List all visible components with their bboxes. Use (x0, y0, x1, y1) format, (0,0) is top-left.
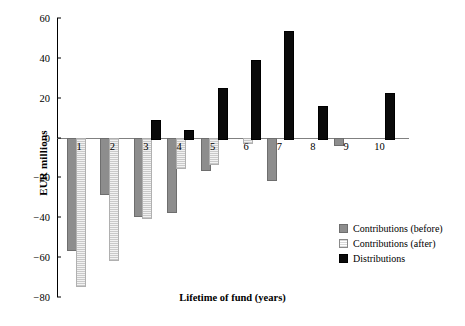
legend-item[interactable]: Distributions (339, 251, 443, 266)
y-tick-mark (57, 257, 61, 258)
y-tick-mark (57, 177, 61, 178)
x-tick-label: 7 (277, 141, 282, 152)
y-tick-mark (57, 57, 61, 58)
legend-swatch-icon (339, 224, 348, 233)
x-tick-label: 8 (310, 141, 315, 152)
x-axis-title: Lifetime of fund (years) (0, 292, 465, 303)
y-tick-label: 20 (40, 92, 58, 103)
bar-after-1 (76, 138, 86, 287)
legend-swatch-icon (339, 239, 348, 248)
x-tick-label: 10 (374, 141, 385, 152)
bar-dist-6 (251, 60, 261, 140)
legend-label: Contributions (after) (353, 236, 435, 251)
y-tick-mark (57, 217, 61, 218)
y-tick-label: 60 (40, 13, 58, 24)
x-tick-label: 4 (177, 141, 182, 152)
x-tick-label: 5 (210, 141, 215, 152)
bar-dist-10 (385, 93, 395, 140)
y-tick-label: 40 (40, 52, 58, 63)
x-tick-label: 2 (110, 141, 115, 152)
y-tick-label: −20 (34, 172, 57, 183)
y-tick-mark (57, 18, 61, 19)
chart-container: EUR millions 6040200−20−40−60−80 1234567… (0, 0, 465, 326)
bar-dist-8 (318, 106, 328, 140)
bar-dist-5 (218, 88, 228, 140)
x-tick-label: 6 (243, 141, 248, 152)
y-tick-mark (57, 97, 61, 98)
y-tick-mark (57, 137, 61, 138)
chart-legend: Contributions (before)Contributions (aft… (339, 221, 443, 266)
legend-label: Contributions (before) (353, 221, 443, 236)
y-tick-label: −60 (34, 252, 57, 263)
legend-swatch-icon (339, 254, 348, 263)
bar-after-2 (109, 138, 119, 262)
x-tick-label: 3 (143, 141, 148, 152)
x-tick-label: 9 (344, 141, 349, 152)
bar-dist-4 (184, 130, 194, 140)
legend-label: Distributions (353, 251, 405, 266)
bar-dist-7 (284, 31, 294, 140)
y-tick-label: −40 (34, 212, 57, 223)
legend-item[interactable]: Contributions (after) (339, 236, 443, 251)
x-tick-label: 1 (76, 141, 81, 152)
bar-dist-3 (151, 120, 161, 140)
legend-item[interactable]: Contributions (before) (339, 221, 443, 236)
y-tick-label: 0 (45, 132, 57, 143)
y-axis-line (57, 18, 58, 297)
